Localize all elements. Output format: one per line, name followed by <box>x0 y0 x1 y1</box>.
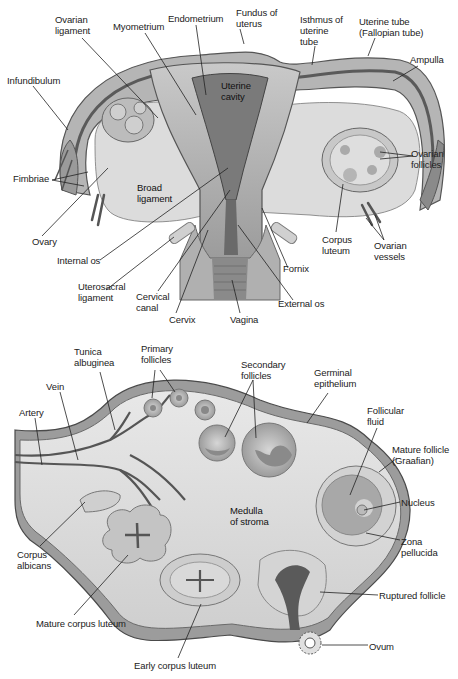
label-broad-ligament: Broad ligament <box>137 182 172 204</box>
label-isthmus-of-uterine-tube: Isthmus of uterine tube <box>300 14 343 47</box>
label-internal-os: Internal os <box>57 255 100 266</box>
label-uterosacral-ligament: Uterosacral ligament <box>78 281 125 303</box>
label-cervix: Cervix <box>169 314 195 325</box>
label-early-corpus-luteum: Early corpus luteum <box>134 660 216 671</box>
label-external-os: External os <box>278 298 324 309</box>
label-ovarian-vessels: Ovarian vessels <box>374 240 407 262</box>
label-zona-pellucida: Zona pellucida <box>401 536 438 558</box>
label-tunica-albuginea: Tunica albuginea <box>74 346 114 368</box>
label-corpus-albicans: Corpus albicans <box>17 549 51 571</box>
label-vein: Vein <box>46 381 64 392</box>
label-primary-follicles: Primary follicles <box>141 343 173 365</box>
label-ovarian-ligament: Ovarian ligament <box>55 14 90 36</box>
label-artery: Artery <box>19 407 44 418</box>
label-endometrium: Endometrium <box>168 13 223 24</box>
label-fornix: Fornix <box>283 263 309 274</box>
label-uterine-cavity: Uterine cavity <box>221 80 251 102</box>
label-germinal-epithelium: Germinal epithelium <box>314 367 356 389</box>
label-ovum: Ovum <box>369 641 394 652</box>
label-secondary-follicles: Secondary follicles <box>241 359 286 381</box>
label-nucleus: Nucleus <box>401 497 435 508</box>
label-vagina: Vagina <box>230 314 258 325</box>
label-fimbriae: Fimbriae <box>13 173 49 184</box>
label-mature-follicle: Mature follicle (Graafian) <box>392 444 449 466</box>
label-ruptured-follicle: Ruptured follicle <box>379 590 445 601</box>
ovary-panel <box>15 380 410 654</box>
label-ovary: Ovary <box>32 236 57 247</box>
label-myometrium: Myometrium <box>113 21 164 32</box>
label-ovarian-follicles: Ovarian follicles <box>411 148 444 170</box>
label-uterine-tube: Uterine tube (Fallopian tube) <box>359 16 423 38</box>
label-fundus-of-uterus: Fundus of uterus <box>236 7 277 29</box>
anatomy-figure: Ovarian ligament Myometrium Endometrium … <box>0 0 458 679</box>
label-corpus-luteum: Corpus luteum <box>322 234 352 256</box>
label-infundibulum: Infundibulum <box>7 75 60 86</box>
label-medulla-of-stroma: Medulla of stroma <box>230 505 269 527</box>
label-ampulla: Ampulla <box>410 54 444 65</box>
label-cervical-canal: Cervical canal <box>136 291 170 313</box>
label-mature-corpus-luteum: Mature corpus luteum <box>36 618 126 629</box>
label-follicular-fluid: Follicular fluid <box>367 405 404 427</box>
